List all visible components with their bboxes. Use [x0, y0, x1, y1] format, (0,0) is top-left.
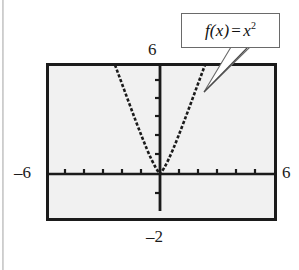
x-axis-max-label: 6 — [282, 164, 291, 181]
x-axis-min-label: –6 — [14, 164, 31, 181]
plot-area — [46, 63, 277, 221]
y-axis-max-label: 6 — [148, 41, 157, 58]
function-callout-box: f(x)=x2 — [181, 13, 280, 48]
function-operator: = — [229, 21, 243, 40]
function-base: f(x) — [205, 21, 229, 40]
y-axis — [155, 65, 160, 211]
function-variable: x — [243, 21, 251, 40]
parabola-figure: f(x)=x2 6 –6 6 –2 — [0, 0, 299, 270]
y-axis-min-label: –2 — [146, 228, 163, 245]
function-exponent: 2 — [251, 20, 256, 31]
function-label: f(x)=x2 — [205, 20, 256, 41]
